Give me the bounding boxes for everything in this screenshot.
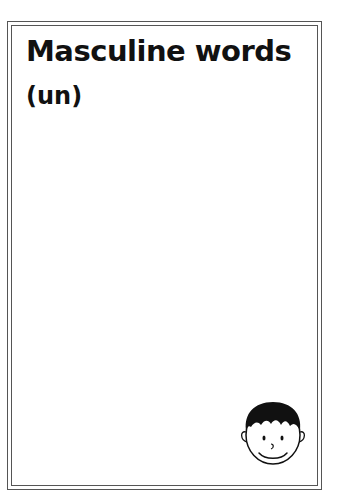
- article-label: (un): [26, 84, 82, 108]
- boy-face-icon: [238, 392, 308, 468]
- page-title: Masculine words: [26, 37, 291, 66]
